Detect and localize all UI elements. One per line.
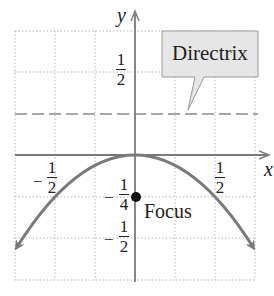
tick-label-y-neg-half-sign: − bbox=[104, 230, 114, 250]
parabola-curve-left bbox=[17, 155, 135, 247]
focus-point bbox=[131, 192, 141, 202]
focus-label: Focus bbox=[144, 200, 192, 223]
tick-label-x-half: 1 2 bbox=[215, 160, 225, 195]
tick-label-y-neg-quarter-sign: − bbox=[104, 188, 114, 208]
x-axis-label: x bbox=[264, 158, 273, 181]
tick-label-y-half: 1 2 bbox=[116, 52, 126, 87]
tick-label-x-neg-half-sign: − bbox=[33, 172, 43, 192]
directrix-label: Directrix bbox=[172, 41, 248, 66]
tick-label-x-neg-half: 1 2 bbox=[47, 160, 57, 195]
tick-label-y-neg-quarter: 1 4 bbox=[119, 177, 129, 212]
tick-label-y-neg-half: 1 2 bbox=[119, 219, 129, 254]
y-axis-label: y bbox=[117, 4, 126, 27]
